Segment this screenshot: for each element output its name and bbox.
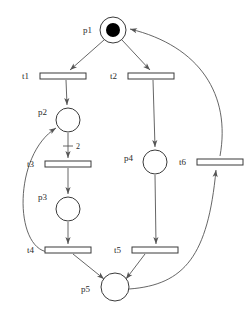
arrowhead-a13 [129,26,137,33]
place-p4[interactable] [143,150,167,174]
petri-net-diagram: 2 t1t2t3t4t5t6p1p2p3p4p5 [0,0,246,317]
arc-t6-to-p1 [130,29,222,156]
arc-p4-to-t5 [155,175,156,244]
transition-label-t1: t1 [22,71,29,81]
token-p1 [106,23,120,37]
transition-t2[interactable] [128,73,174,79]
arrowhead-layer [49,26,219,281]
transition-label-t6: t6 [179,157,187,167]
arc-t4-to-p5 [73,254,104,279]
transition-t3[interactable] [45,161,91,167]
place-layer [56,17,167,301]
transition-t6[interactable] [197,159,243,165]
arc-t4-to-p2 [23,128,56,252]
arc-p5-to-t6 [129,170,216,289]
arc-weight-label-a4: 2 [76,142,80,151]
transition-label-t2: t2 [110,71,117,81]
place-label-p4: p4 [124,153,134,163]
arc-p1-to-t1 [70,40,104,70]
transition-t1[interactable] [40,73,86,79]
place-p5[interactable] [101,273,129,301]
petri-net-canvas: 2 t1t2t3t4t5t6p1p2p3p4p5 [0,0,246,317]
arc-p1-to-t2 [122,40,150,70]
transition-t4[interactable] [45,247,91,253]
transition-label-t3: t3 [27,159,35,169]
transition-layer [40,73,243,253]
transition-label-t4: t4 [27,245,35,255]
place-label-p5: p5 [81,284,91,294]
arc-t2-to-p4 [153,80,155,147]
transition-t5[interactable] [132,247,178,253]
transition-label-t5: t5 [114,245,122,255]
place-label-p1: p1 [83,25,92,35]
place-label-p2: p2 [38,107,47,117]
place-p2[interactable] [56,108,80,132]
place-p3[interactable] [56,197,80,221]
place-label-p3: p3 [38,192,48,202]
